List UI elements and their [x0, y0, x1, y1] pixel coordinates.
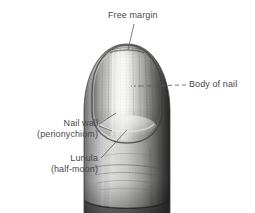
label-free-margin: Free margin: [108, 10, 158, 21]
label-lunula-line1: Lunula: [14, 153, 98, 164]
label-body-of-nail: Body of nail: [189, 79, 237, 90]
label-nail-wall-line1: Nail wall: [14, 118, 98, 129]
nail-anatomy-figure: Free margin Body of nail Nail wall (peri…: [0, 0, 255, 213]
label-nail-wall-line2: (perionychiom): [14, 129, 98, 140]
fingertip-illustration: [0, 0, 255, 213]
label-lunula: Lunula (half-moon): [14, 153, 98, 175]
label-free-margin-text: Free margin: [108, 10, 158, 20]
label-nail-wall: Nail wall (perionychiom): [14, 118, 98, 140]
label-lunula-line2: (half-moon): [14, 164, 98, 175]
label-body-of-nail-text: Body of nail: [189, 79, 237, 89]
